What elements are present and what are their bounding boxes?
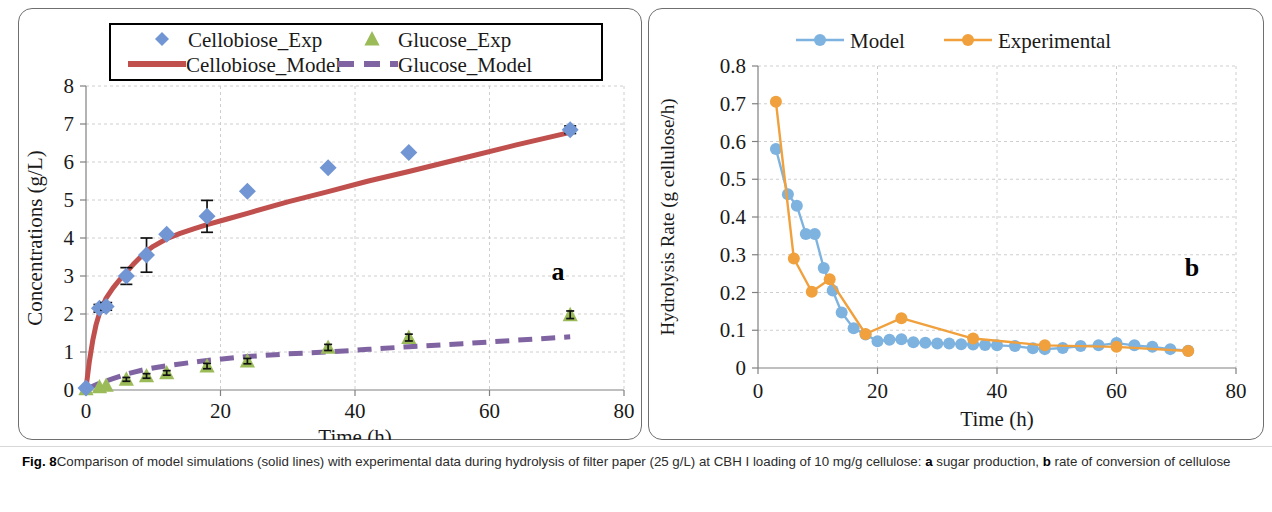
figure-container: 012345678020406080Time (h)Concentrations… [0,0,1272,512]
panel-b-gridlines [758,66,1236,368]
model-marker [955,338,967,350]
y-tick-label: 7 [64,112,75,136]
x-tick-label: 0 [81,399,92,423]
y-tick-label: 0.4 [720,205,747,229]
y-tick-label: 0.7 [720,92,746,116]
experimental-marker [1039,339,1051,351]
legend-label-glucose-model: Glucose_Model [398,53,532,77]
model-series [770,143,1194,357]
cellobiose-exp-marker [400,144,417,161]
model-marker [931,337,943,349]
caption-divider [0,446,1272,447]
figure-label: Fig. 8 [22,454,57,469]
model-marker [791,200,803,212]
model-marker [872,335,884,347]
model-marker [818,262,830,274]
caption-bold-b: b [1043,454,1051,469]
panel-a-x-axis-title: Time (h) [318,425,391,440]
y-tick-label: 6 [64,150,75,174]
panel-a-y-axis-title: Concentrations (g/L) [23,150,47,326]
experimental-marker [895,312,907,324]
model-marker [895,333,907,345]
y-tick-label: 0.1 [720,318,746,342]
legend-label-experimental: Experimental [998,29,1111,53]
legend-label-model: Model [850,29,905,53]
y-tick-label: 1 [64,340,75,364]
model-marker [907,336,919,348]
experimental-marker [1111,341,1123,353]
glucose-exp-markers [78,307,577,396]
panel-b-legend: ModelExperimental [796,29,1111,53]
caption-text-2: sugar production, [933,454,1043,469]
y-tick-label: 5 [64,188,75,212]
y-tick-label: 0 [64,378,75,402]
experimental-marker [967,333,979,345]
panel-b-x-axis-title: Time (h) [960,407,1033,431]
caption-text-1: Comparison of model simulations (solid l… [57,454,925,469]
panel-a-chart: 012345678020406080Time (h)Concentrations… [18,8,642,440]
y-tick-label: 3 [64,264,75,288]
legend-marker-experimental [962,34,974,46]
x-tick-label: 60 [479,399,500,423]
model-marker [919,337,931,349]
x-tick-label: 0 [753,379,764,403]
experimental-marker [860,328,872,340]
panel-a-legend: Cellobiose_ExpGlucose_ExpCellobiose_Mode… [110,24,602,80]
x-tick-label: 60 [1106,379,1127,403]
y-tick-label: 0 [736,356,747,380]
panel-b-chart: 00.10.20.30.40.50.60.70.8020406080Time (… [648,8,1264,440]
panel-b-letter: b [1185,253,1199,282]
model-marker [836,307,848,319]
y-tick-label: 0.5 [720,167,746,191]
cellobiose-exp-markers [78,121,579,396]
legend-label-cellobiose-exp: Cellobiose_Exp [188,28,322,52]
model-marker [943,337,955,349]
y-tick-label: 0.8 [720,54,746,78]
caption-text-3: rate of conversion of cellulose [1051,454,1231,469]
figure-caption: Fig. 8Comparison of model simulations (s… [22,452,1250,472]
y-tick-label: 8 [64,74,75,98]
cellobiose-exp-marker [239,183,256,200]
model-marker [1057,342,1069,354]
model-marker [1146,341,1158,353]
legend-marker-model [814,34,826,46]
x-tick-label: 40 [987,379,1008,403]
y-tick-label: 0.3 [720,243,746,267]
panel-a-letter: a [552,257,565,286]
x-tick-label: 20 [210,399,231,423]
y-tick-label: 2 [64,302,75,326]
legend-label-cellobiose-model: Cellobiose_Model [186,53,341,77]
legend-label-glucose-exp: Glucose_Exp [398,28,511,52]
y-tick-label: 0.2 [720,281,746,305]
model-marker [1128,339,1140,351]
y-tick-label: 0.6 [720,130,746,154]
experimental-marker [824,273,836,285]
experimental-marker [1182,345,1194,357]
y-tick-label: 4 [64,226,75,250]
experimental-marker [806,286,818,298]
x-tick-label: 80 [1226,379,1247,403]
caption-bold-a: a [925,454,932,469]
experimental-marker [770,96,782,108]
model-marker [809,228,821,240]
experimental-series [770,96,1194,357]
x-tick-label: 40 [345,399,366,423]
x-tick-label: 20 [867,379,888,403]
x-tick-label: 80 [614,399,635,423]
panel-b-y-axis-title: Hydrolysis Rate (g cellulose/h) [657,99,679,336]
experimental-marker [788,253,800,265]
model-marker [883,334,895,346]
